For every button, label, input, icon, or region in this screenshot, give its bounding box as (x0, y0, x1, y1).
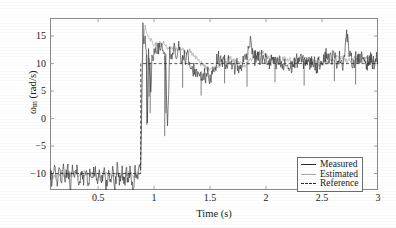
y-tick-label: 5 (24, 86, 46, 96)
x-tick-label: 1.5 (195, 193, 225, 203)
x-axis-label: Time (s) (50, 208, 378, 219)
y-tick-label: 15 (24, 31, 46, 41)
y-axis-tick-labels: 151050−5−10 (22, 0, 46, 228)
x-tick-label: 2 (251, 193, 281, 203)
y-tick-label: −10 (24, 169, 46, 179)
x-tick-label: 1 (139, 193, 169, 203)
legend: MeasuredEstimatedReference (297, 157, 363, 192)
legend-line-icon (300, 180, 317, 188)
y-tick-label: −5 (24, 141, 46, 151)
x-tick-label: 2.5 (307, 193, 337, 203)
series-line-estimated (50, 25, 378, 178)
x-tick-label: 0.5 (83, 193, 113, 203)
y-tick-label: 10 (24, 59, 46, 69)
legend-line-icon (300, 170, 317, 178)
x-tick-label: 3 (363, 193, 393, 203)
legend-item-label: Reference (320, 179, 359, 189)
y-tick-label: 0 (24, 114, 46, 124)
legend-line-icon (300, 161, 317, 169)
figure-container: ωm (rad/s) Time (s) 151050−5−10 0.511.52… (0, 0, 396, 228)
legend-item: Reference (300, 179, 359, 189)
